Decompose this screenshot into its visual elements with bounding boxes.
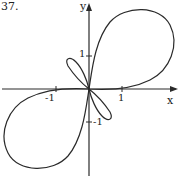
y-axis-label: y <box>80 0 86 13</box>
y-tick-label-neg1: -1 <box>93 116 103 127</box>
x-axis-label: x <box>167 94 173 107</box>
y-axis-arrow-icon <box>86 3 92 11</box>
x-tick-label-neg1: -1 <box>45 92 55 103</box>
problem-number: 37. <box>1 0 19 13</box>
polar-graph: 37. y x -1 1 1 -1 <box>0 0 182 176</box>
x-tick-label-1: 1 <box>118 92 124 103</box>
y-tick-label-1: 1 <box>79 48 85 59</box>
small-petal-quadrant-4 <box>89 89 111 119</box>
small-petal-quadrant-2 <box>67 59 89 89</box>
x-axis-arrow-icon <box>170 86 178 92</box>
graph-canvas <box>0 0 182 176</box>
large-loop-quadrant-1 <box>89 10 174 90</box>
